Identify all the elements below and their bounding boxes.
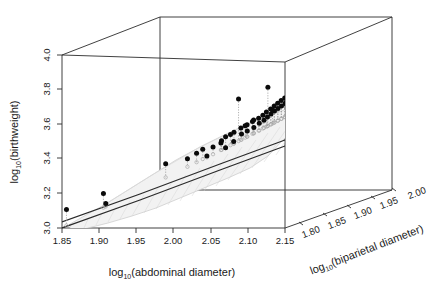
data-point <box>284 99 289 104</box>
axis-box-wireframe <box>62 17 392 228</box>
data-point <box>324 69 329 74</box>
surface-projection-point <box>321 96 324 99</box>
surface-projection-point <box>329 91 332 94</box>
data-point <box>223 134 228 139</box>
data-point <box>185 156 190 161</box>
data-point <box>219 138 224 143</box>
y-axis-label: log10(birthweight) <box>8 100 22 183</box>
surface-projection-point <box>312 100 315 103</box>
data-point <box>293 93 298 98</box>
data-point <box>311 82 316 87</box>
data-point <box>103 201 108 206</box>
data-point <box>282 96 287 101</box>
surface-projection-point <box>297 108 300 111</box>
data-point <box>303 81 308 86</box>
data-point <box>300 89 305 94</box>
data-point <box>311 79 316 84</box>
data-point <box>265 85 270 90</box>
data-point <box>297 91 302 96</box>
surface-projection-point <box>304 104 307 107</box>
z-axis-label-prefix: log <box>308 260 326 276</box>
surface-projection-point <box>294 110 297 113</box>
y-tick-label: 3.8 <box>41 82 52 95</box>
surface-projection-point <box>292 111 295 114</box>
data-point <box>300 84 305 89</box>
x-axis-label-sub: 10 <box>123 273 131 280</box>
y-axis-ticks <box>57 55 62 228</box>
x-tick-label: 1.90 <box>90 235 109 246</box>
y-tick-label: 3.4 <box>41 151 52 164</box>
plot-canvas: 3.0 3.2 3.4 3.6 3.8 4.0 log10(birthweigh… <box>0 0 446 295</box>
data-point <box>239 131 244 136</box>
data-point <box>316 79 321 84</box>
data-point <box>328 69 333 74</box>
data-point <box>286 93 291 98</box>
z-axis-label: log10(biparietal diameter) <box>308 222 425 278</box>
data-point <box>251 117 256 122</box>
data-point <box>163 161 168 166</box>
data-point <box>315 74 320 79</box>
data-point <box>330 66 335 71</box>
surface-projection-point <box>311 101 314 104</box>
data-point <box>238 126 243 131</box>
surface-projection-point <box>331 90 334 93</box>
data-point <box>257 121 262 126</box>
data-point <box>223 145 228 150</box>
data-point <box>194 151 199 156</box>
x-axis-label: log10(abdominal diameter) <box>109 266 235 280</box>
data-point <box>307 79 312 84</box>
x-axis: 1.85 1.90 1.95 2.00 2.05 2.10 2.15 log10… <box>53 228 295 280</box>
surface-projection-point <box>308 102 311 105</box>
surface-projection-point <box>301 106 304 109</box>
surface-projection-point <box>290 112 293 115</box>
y-tick-label: 3.2 <box>41 186 52 199</box>
z-tick-label: 1.95 <box>378 194 399 211</box>
surface-projection-point <box>304 104 307 107</box>
data-point <box>270 108 275 113</box>
surface-projection-point <box>312 100 315 103</box>
surface-projection-point <box>321 95 324 98</box>
x-tick-label: 2.05 <box>202 235 221 246</box>
data-point <box>251 125 256 130</box>
data-point <box>236 96 241 101</box>
data-point <box>290 96 295 101</box>
data-point <box>291 91 296 96</box>
data-point <box>320 58 325 63</box>
data-point <box>101 191 106 196</box>
data-point <box>264 110 269 115</box>
data-point <box>228 132 233 137</box>
data-point <box>320 77 325 82</box>
x-tick-label: 1.95 <box>127 235 146 246</box>
data-point <box>243 123 248 128</box>
data-point <box>204 153 209 158</box>
y-axis-label-prefix: log <box>8 169 20 184</box>
z-tick-label: 1.80 <box>300 223 321 240</box>
surface-projection-point <box>287 113 290 116</box>
z-tick-label: 1.85 <box>326 214 347 231</box>
x-axis-ticks <box>62 228 285 233</box>
data-point <box>211 144 216 149</box>
data-point <box>64 207 69 212</box>
x-tick-label: 2.10 <box>239 235 258 246</box>
data-point <box>331 71 336 76</box>
data-point <box>289 91 294 96</box>
data-point <box>293 88 298 93</box>
surface-projection-point <box>286 113 289 116</box>
y-tick-label: 3.0 <box>41 221 52 234</box>
surface-projection-point <box>301 106 304 109</box>
surface-projection-point <box>320 96 323 99</box>
surface-projection-point <box>330 91 333 94</box>
y-tick-label: 3.6 <box>41 117 52 130</box>
surface-projection-point <box>308 102 311 105</box>
data-point <box>245 129 250 134</box>
surface-projection-point <box>294 110 297 113</box>
z-axis: 1.80 1.85 1.90 1.95 2.00 log10(biparieta… <box>299 184 427 278</box>
data-point <box>335 63 340 68</box>
data-point <box>325 74 330 79</box>
data-point <box>319 72 324 77</box>
data-point <box>231 139 236 144</box>
y-tick-label: 4.0 <box>41 48 52 61</box>
data-point <box>200 147 205 152</box>
data-point <box>256 116 261 121</box>
y-axis: 3.0 3.2 3.4 3.6 3.8 4.0 log10(birthweigh… <box>8 48 62 234</box>
